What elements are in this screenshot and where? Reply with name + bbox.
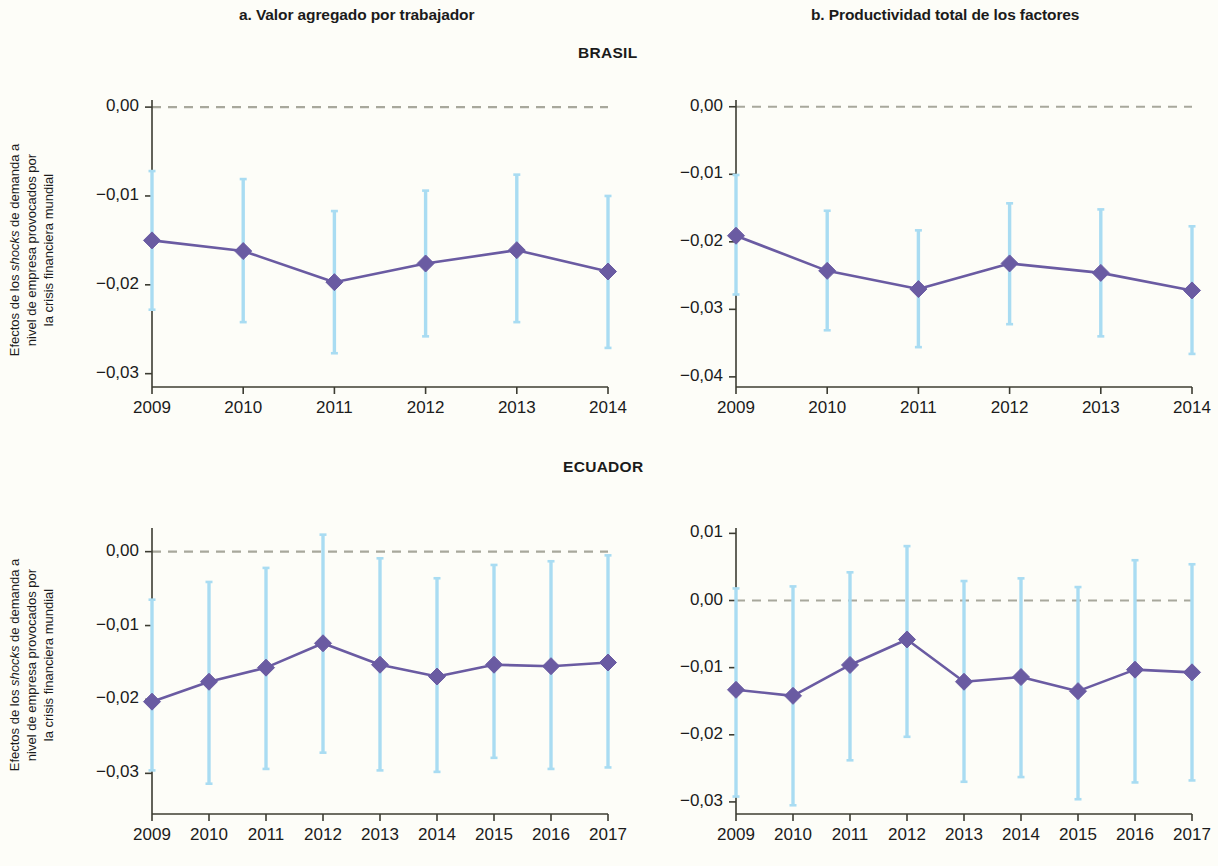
y-axis-tick-label: −0,02 — [66, 274, 139, 294]
y-axis-tick-label: 0,00 — [66, 96, 139, 116]
plot-area — [66, 500, 626, 860]
x-axis-tick-label: 2012 — [970, 398, 1050, 418]
y-axis-tick-label: −0,01 — [650, 657, 723, 677]
y-axis-tick-label: 0,01 — [650, 522, 723, 542]
data-point-marker — [144, 232, 161, 249]
y-axis-tick-label: −0,01 — [66, 185, 139, 205]
data-point-marker — [1092, 264, 1109, 281]
data-point-marker — [508, 242, 525, 259]
x-axis-tick-label: 2014 — [568, 398, 648, 418]
data-point-marker — [842, 656, 859, 673]
y-axis-tick-label: −0,03 — [66, 363, 139, 383]
data-point-marker — [1127, 661, 1144, 678]
data-point-marker — [600, 263, 617, 280]
y-axis-tick-label: −0,01 — [650, 163, 723, 183]
plot-area — [650, 500, 1210, 860]
x-axis-tick-label: 2014 — [1152, 398, 1218, 418]
data-point-marker — [201, 673, 218, 690]
x-axis-tick-label: 2009 — [112, 398, 192, 418]
data-point-marker — [910, 281, 927, 298]
y-axis-label-line2: nivel de empresa provocados por — [24, 569, 39, 761]
data-point-marker — [372, 656, 389, 673]
y-axis-tick-label: −0,04 — [650, 366, 723, 386]
y-axis-label-line1: Efectos de los shocks de demanda a — [7, 559, 22, 771]
series-line — [736, 236, 1192, 291]
data-point-marker — [785, 687, 802, 704]
plot-area — [650, 88, 1210, 433]
data-point-marker — [486, 656, 503, 673]
x-axis-tick-label: 2010 — [787, 398, 867, 418]
data-point-marker — [144, 693, 161, 710]
data-point-marker — [326, 274, 343, 291]
y-axis-tick-label: −0,02 — [650, 231, 723, 251]
data-point-marker — [543, 658, 560, 675]
data-point-marker — [819, 262, 836, 279]
chart-brasil-productividad: 0,00−0,01−0,02−0,03−0,042009201020112012… — [650, 88, 1210, 433]
series-line — [152, 240, 608, 282]
data-point-marker — [429, 668, 446, 685]
y-axis-tick-label: −0,02 — [66, 688, 139, 708]
x-axis-tick-label: 2012 — [386, 398, 466, 418]
x-axis-tick-label: 2009 — [696, 398, 776, 418]
chart-ecuador-valor-agregado: 0,00−0,01−0,02−0,03200920102011201220132… — [66, 500, 626, 860]
x-axis-tick-label: 2011 — [294, 398, 374, 418]
y-axis-label-line3: la crisis financiera mundial — [41, 174, 56, 326]
x-axis-tick-label: 2017 — [568, 825, 648, 845]
x-axis-tick-label: 2013 — [1061, 398, 1141, 418]
data-point-marker — [1001, 255, 1018, 272]
y-axis-tick-label: −0,02 — [650, 724, 723, 744]
y-axis-label-brasil: Efectos de los shocks de demanda a nivel… — [6, 95, 57, 405]
chart-brasil-valor-agregado: 0,00−0,01−0,02−0,03200920102011201220132… — [66, 88, 626, 433]
panel-a-title: a. Valor agregado por trabajador — [239, 6, 474, 24]
section-header-ecuador: ECUADOR — [563, 458, 643, 476]
y-axis-tick-label: −0,01 — [66, 615, 139, 635]
data-point-marker — [1184, 282, 1201, 299]
y-axis-tick-label: 0,00 — [650, 96, 723, 116]
data-point-marker — [600, 654, 617, 671]
section-header-brasil: BRASIL — [578, 44, 638, 62]
data-point-marker — [258, 659, 275, 676]
y-axis-label-ecuador: Efectos de los shocks de demanda a nivel… — [6, 505, 57, 825]
y-axis-label-line1: Efectos de los shocks de demanda a — [7, 144, 22, 356]
x-axis-tick-label: 2017 — [1152, 825, 1218, 845]
x-axis-tick-label: 2011 — [878, 398, 958, 418]
x-axis-tick-label: 2013 — [477, 398, 557, 418]
panel-b-title: b. Productividad total de los factores — [811, 6, 1079, 24]
plot-area — [66, 88, 626, 433]
data-point-marker — [1070, 683, 1087, 700]
y-axis-tick-label: −0,03 — [66, 762, 139, 782]
y-axis-tick-label: 0,00 — [66, 541, 139, 561]
y-axis-tick-label: −0,03 — [650, 298, 723, 318]
x-axis-tick-label: 2010 — [203, 398, 283, 418]
data-point-marker — [315, 635, 332, 652]
data-point-marker — [235, 243, 252, 260]
y-axis-label-line2: nivel de empresa provocados por — [24, 154, 39, 346]
data-point-marker — [1184, 664, 1201, 681]
y-axis-tick-label: 0,00 — [650, 590, 723, 610]
data-point-marker — [728, 681, 745, 698]
y-axis-tick-label: −0,03 — [650, 791, 723, 811]
data-point-marker — [1013, 669, 1030, 686]
chart-ecuador-productividad: 0,010,00−0,01−0,02−0,0320092010201120122… — [650, 500, 1210, 860]
y-axis-label-line3: la crisis financiera mundial — [41, 589, 56, 741]
data-point-marker — [417, 255, 434, 272]
